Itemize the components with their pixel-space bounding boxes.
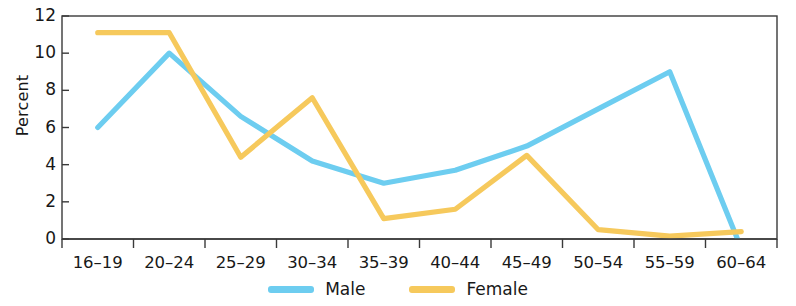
legend-label: Male bbox=[325, 281, 365, 298]
x-axis-tick-label: 20–24 bbox=[144, 255, 194, 272]
legend-swatch-icon bbox=[409, 286, 455, 293]
legend-label: Female bbox=[466, 281, 527, 298]
legend-swatch-icon bbox=[268, 286, 314, 293]
x-axis-tick-label: 16–19 bbox=[73, 255, 123, 272]
x-axis-tick-label: 60–64 bbox=[716, 255, 766, 272]
x-axis-tick-label: 30–34 bbox=[287, 255, 337, 272]
x-axis-tick-label: 35–39 bbox=[359, 255, 409, 272]
legend-item-male[interactable]: Male bbox=[268, 281, 365, 298]
x-axis-tick-label: 50–54 bbox=[573, 255, 623, 272]
line-chart: Percent 024681012 16–1920–2425–2930–3435… bbox=[0, 0, 796, 306]
legend-item-female[interactable]: Female bbox=[409, 281, 527, 298]
series-line-female bbox=[98, 33, 742, 236]
x-axis-tick-label: 40–44 bbox=[430, 255, 480, 272]
x-axis-tick-label: 45–49 bbox=[502, 255, 552, 272]
series-line-male bbox=[98, 53, 742, 248]
x-axis-tick-label: 25–29 bbox=[216, 255, 266, 272]
chart-legend: MaleFemale bbox=[0, 281, 796, 298]
x-axis-tick-label: 55–59 bbox=[645, 255, 695, 272]
plot-frame bbox=[62, 16, 777, 239]
